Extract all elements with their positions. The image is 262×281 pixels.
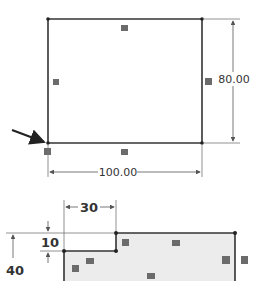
vertical-relation-icon: [53, 79, 59, 85]
vertex-point[interactable]: [114, 249, 118, 253]
dimension-10[interactable]: 10: [41, 221, 59, 263]
vertex-point[interactable]: [200, 17, 204, 21]
dimension-text-height[interactable]: 80.00: [218, 73, 250, 86]
horizontal-relation-icon: [86, 258, 94, 264]
dimension-text-30[interactable]: 30: [80, 200, 98, 215]
sketch-rectangle[interactable]: [46, 17, 204, 145]
dimension-height[interactable]: 80.00: [218, 21, 250, 141]
horizontal-relation-icon: [147, 273, 155, 279]
vertex-point[interactable]: [46, 17, 50, 21]
vertex-point[interactable]: [62, 249, 66, 253]
sketch-canvas: 100.00 80.00 30: [0, 0, 262, 281]
origin-point[interactable]: [46, 141, 50, 145]
dimension-30[interactable]: 30: [66, 200, 114, 215]
horizontal-relation-icon: [121, 149, 128, 155]
vertex-point[interactable]: [200, 141, 204, 145]
vertex-point[interactable]: [233, 231, 237, 235]
relation-badges: [44, 25, 212, 155]
dimension-text-40[interactable]: 40: [6, 263, 24, 278]
horizontal-relation-icon: [172, 240, 180, 246]
dimension-width[interactable]: 100.00: [50, 166, 200, 179]
dimension-text-10[interactable]: 10: [41, 235, 59, 250]
dimension-40[interactable]: 40: [6, 235, 24, 278]
pointer-arrow-icon: [12, 130, 44, 142]
vertical-relation-icon: [72, 265, 79, 272]
fix-relation-icon: [44, 148, 51, 155]
vertical-relation-icon: [241, 256, 248, 264]
coincident-relation-icon: [222, 256, 230, 264]
vertex-point[interactable]: [114, 231, 118, 235]
dimension-text-width[interactable]: 100.00: [99, 166, 138, 179]
horizontal-relation-icon: [121, 25, 128, 31]
vertical-relation-icon: [122, 239, 129, 246]
vertical-relation-icon: [205, 78, 212, 85]
